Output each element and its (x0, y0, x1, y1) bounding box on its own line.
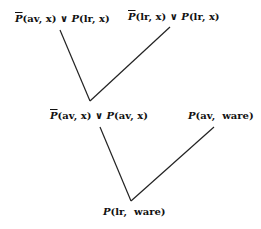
predicate: P (188, 110, 196, 121)
negated-predicate: P (128, 11, 136, 22)
node-c2: P(lr, x) ∨ P(lr, x) (128, 11, 220, 23)
args: (lr, x) (189, 11, 220, 22)
node-c5: P(lr, ware) (103, 206, 166, 218)
node-c3: P(av, x) ∨ P(av, x) (50, 110, 148, 122)
predicate: P (181, 11, 189, 22)
edge-c4-c5 (131, 127, 214, 201)
negated-predicate: P (15, 13, 23, 24)
args: (av, x) (114, 110, 148, 121)
negated-predicate: P (50, 110, 58, 121)
args: (lr, x) (79, 13, 110, 24)
edge-c2-c3 (90, 27, 170, 101)
predicate: P (103, 206, 111, 217)
node-c4: P(av, ware) (188, 110, 254, 122)
edge-c1-c3 (60, 30, 90, 101)
args: (av, x) ∨ (58, 110, 107, 121)
args: (lr, x) ∨ (136, 11, 182, 22)
args: (lr, ware) (111, 206, 166, 217)
predicate: P (106, 110, 114, 121)
args: (av, ware) (196, 110, 254, 121)
node-c1: P(av, x) ∨ P(lr, x) (15, 13, 110, 25)
predicate: P (71, 13, 79, 24)
args: (av, x) ∨ (23, 13, 72, 24)
edge-c3-c5 (100, 127, 131, 201)
